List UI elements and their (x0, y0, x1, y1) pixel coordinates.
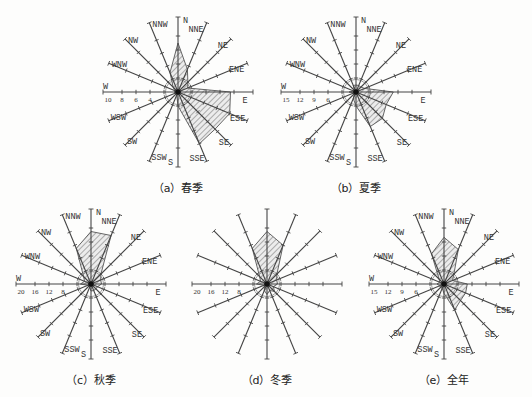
scale-label: 6 (414, 288, 418, 296)
scale-label: 12 (222, 288, 230, 296)
center-dot (353, 89, 359, 95)
direction-label-SSW: SSW (417, 345, 433, 355)
caption-c: （c）秋季 (66, 373, 116, 387)
direction-label-E: E (155, 288, 160, 298)
direction-label-WSW: WSW (111, 113, 127, 123)
direction-label-SSW: SSW (64, 345, 80, 355)
scale-label: 15 (283, 96, 291, 104)
direction-label-NNE: NNE (366, 25, 381, 35)
direction-label-ENE: ENE (229, 65, 244, 75)
direction-label-W: W (281, 82, 287, 92)
scale-label: 20 (194, 288, 202, 296)
wind-rose-e: NNNENEENEEESESESSESSSWSWWSWWWNWNWNNW1512… (369, 208, 519, 387)
direction-label-WSW: WSW (289, 113, 305, 123)
scale-label: 12 (385, 288, 393, 296)
scale-label: 15 (371, 288, 379, 296)
direction-label-NW: NW (394, 228, 405, 238)
direction-label-SSW: SSW (329, 153, 345, 163)
center-dot (175, 89, 181, 95)
direction-label-SSE: SSE (189, 154, 204, 164)
direction-label-WSW: WSW (24, 305, 40, 315)
direction-label-S: S (168, 158, 173, 168)
scale-label: 8 (237, 288, 241, 296)
direction-label-WNW: WNW (112, 60, 128, 70)
direction-label-E: E (242, 96, 247, 106)
direction-label-W: W (369, 274, 375, 284)
direction-label-S: S (81, 350, 86, 360)
direction-label-ENE: ENE (495, 257, 510, 267)
direction-label-SSE: SSE (367, 154, 382, 164)
direction-label-ENE: ENE (407, 65, 422, 75)
direction-label-ENE: ENE (142, 257, 157, 267)
center-dot (88, 281, 94, 287)
scale-label: 9 (312, 96, 316, 104)
direction-label-E: E (420, 96, 425, 106)
scale-label: 6 (326, 96, 330, 104)
direction-label-SSE: SSE (455, 346, 470, 356)
wind-rose-d: 2016128（d）冬季 (192, 209, 342, 387)
direction-label-S: S (434, 350, 439, 360)
direction-label-NW: NW (128, 36, 139, 46)
axis-NW (303, 39, 356, 92)
caption-a: （a）春季 (153, 182, 204, 195)
scale-label: 9 (400, 288, 404, 296)
center-dot (264, 281, 270, 287)
direction-label-NNE: NNE (454, 217, 469, 227)
wind-rose-c: NNNENEENEEESESESSESSSWSWWSWWWNWNWNNW2016… (16, 208, 166, 387)
direction-label-WNW: WNW (378, 252, 394, 262)
scale-label: 6 (134, 96, 138, 104)
direction-label-SE: SE (219, 138, 229, 148)
direction-label-W: W (16, 274, 22, 284)
scale-label: 12 (46, 288, 54, 296)
axis-SE (267, 284, 320, 337)
direction-label-WSW: WSW (377, 305, 393, 315)
wind-rose-b: NNNENEENEEESESESSESSSWSWWSWWWNWNWNNW1512… (281, 16, 431, 195)
direction-label-NW: NW (41, 228, 52, 238)
axis-NW (125, 39, 178, 92)
caption-d: （d）冬季 (242, 373, 293, 387)
direction-label-NE: NE (131, 233, 141, 243)
wind-rose-figure: NNNENEENEEESESESSESSSWSWWSWWWNWNWNNW1086… (0, 0, 532, 397)
direction-label-ESE: ESE (230, 114, 245, 124)
direction-label-ESE: ESE (408, 114, 423, 124)
wind-rose-a: NNNENEENEEESESESSESSSWSWWSWWWNWNWNNW1086… (103, 16, 253, 195)
direction-label-NNW: NNW (330, 20, 346, 30)
scale-label: 10 (105, 96, 113, 104)
direction-label-N: N (96, 208, 101, 218)
direction-label-NE: NE (396, 41, 406, 51)
direction-label-NW: NW (306, 36, 317, 46)
scale-label: 16 (208, 288, 216, 296)
caption-b: （b）夏季 (331, 182, 382, 195)
direction-label-SSW: SSW (151, 153, 167, 163)
direction-label-NE: NE (218, 41, 228, 51)
direction-label-SE: SE (132, 330, 142, 340)
direction-label-SSE: SSE (102, 346, 117, 356)
direction-label-ESE: ESE (143, 306, 158, 316)
direction-label-NNE: NNE (188, 25, 203, 35)
scale-label: 4 (148, 96, 152, 104)
direction-label-SW: SW (127, 137, 138, 147)
direction-label-N: N (183, 16, 188, 26)
scale-label: 8 (61, 288, 65, 296)
direction-label-NE: NE (484, 233, 494, 243)
direction-label-NNW: NNW (152, 20, 168, 30)
direction-label-N: N (361, 16, 366, 26)
direction-label-NNW: NNW (65, 212, 81, 222)
direction-label-SW: SW (305, 137, 316, 147)
scale-label: 8 (120, 96, 124, 104)
direction-label-SW: SW (40, 329, 51, 339)
direction-label-ESE: ESE (496, 306, 511, 316)
direction-label-N: N (449, 208, 454, 218)
caption-e: （e）全年 (419, 373, 470, 387)
direction-label-E: E (508, 288, 513, 298)
direction-label-SE: SE (397, 138, 407, 148)
direction-label-S: S (346, 158, 351, 168)
scale-label: 20 (18, 288, 26, 296)
direction-label-SW: SW (393, 329, 404, 339)
direction-label-WNW: WNW (290, 60, 306, 70)
scale-label: 12 (297, 96, 305, 104)
direction-label-NNW: NNW (418, 212, 434, 222)
direction-label-W: W (103, 82, 109, 92)
direction-label-SE: SE (485, 330, 495, 340)
direction-label-WNW: WNW (25, 252, 41, 262)
